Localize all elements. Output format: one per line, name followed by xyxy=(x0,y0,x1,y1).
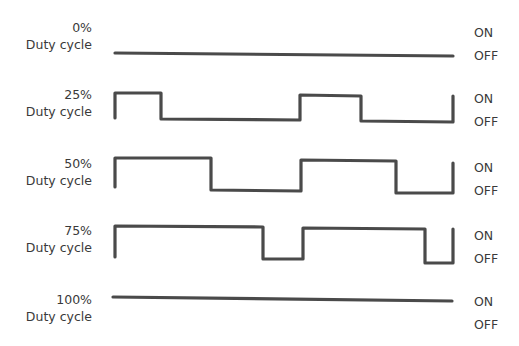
off-label-100: OFF xyxy=(474,317,498,332)
percent-text: 75% xyxy=(26,222,92,239)
on-label-50: ON xyxy=(474,160,493,175)
duty-label-100: 100% Duty cycle xyxy=(26,291,92,325)
waveform-50 xyxy=(115,158,453,193)
on-label-75: ON xyxy=(474,228,493,243)
caption-text: Duty cycle xyxy=(26,172,92,189)
waveform-0 xyxy=(115,53,453,56)
percent-text: 100% xyxy=(26,291,92,308)
caption-text: Duty cycle xyxy=(26,36,92,53)
off-label-25: OFF xyxy=(474,114,498,129)
off-label-50: OFF xyxy=(474,183,498,198)
on-label-25: ON xyxy=(474,91,493,106)
percent-text: 25% xyxy=(26,86,92,103)
caption-text: Duty cycle xyxy=(26,239,92,256)
off-label-0: OFF xyxy=(474,48,498,63)
waveform-25 xyxy=(115,93,453,122)
on-label-0: ON xyxy=(474,25,493,40)
duty-label-25: 25% Duty cycle xyxy=(26,86,92,120)
percent-text: 0% xyxy=(26,19,92,36)
percent-text: 50% xyxy=(26,155,92,172)
caption-text: Duty cycle xyxy=(26,103,92,120)
duty-label-50: 50% Duty cycle xyxy=(26,155,92,189)
off-label-75: OFF xyxy=(474,251,498,266)
duty-label-75: 75% Duty cycle xyxy=(26,222,92,256)
on-label-100: ON xyxy=(474,294,493,309)
waveform-75 xyxy=(115,226,453,263)
waveform-100 xyxy=(113,297,452,301)
duty-label-0: 0% Duty cycle xyxy=(26,19,92,53)
caption-text: Duty cycle xyxy=(26,308,92,325)
